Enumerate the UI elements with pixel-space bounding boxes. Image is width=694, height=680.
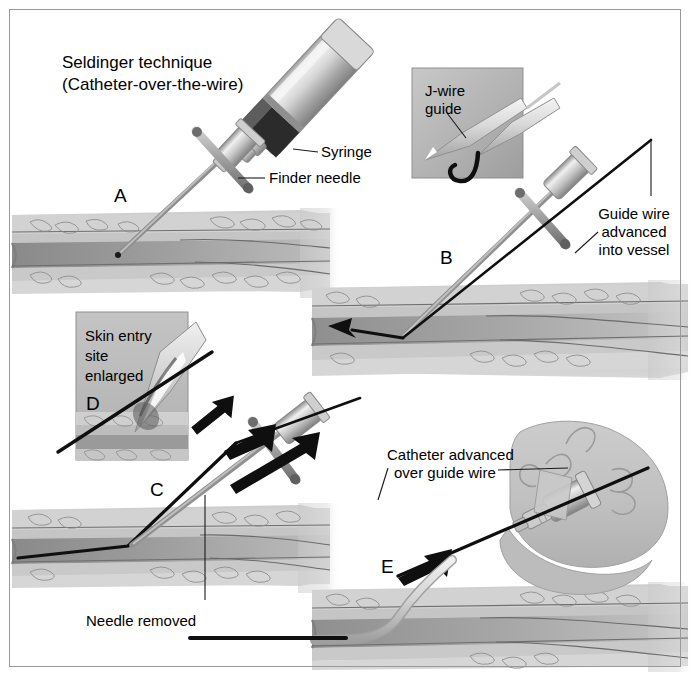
label-guide-wire-line1: Guide wire bbox=[586, 205, 682, 223]
label-syringe: Syringe bbox=[321, 143, 372, 161]
panel-letter-e: E bbox=[381, 557, 394, 576]
panel-letter-c: C bbox=[150, 480, 164, 499]
label-skin-entry-line3: enlarged bbox=[85, 367, 143, 385]
title-line-1: Seldinger technique bbox=[62, 53, 212, 72]
seldinger-technique-figure: Seldinger technique (Catheter-over-the-w… bbox=[0, 0, 694, 680]
label-j-wire-guide-line2: guide bbox=[425, 100, 462, 118]
label-catheter-advanced-line1: Catheter advanced bbox=[387, 446, 514, 464]
label-needle-removed: Needle removed bbox=[86, 612, 196, 630]
panel-letter-b: B bbox=[440, 248, 453, 267]
panel-c-tissue bbox=[12, 503, 340, 593]
label-guide-wire-line2: advanced bbox=[586, 223, 682, 241]
label-skin-entry-line1: Skin entry bbox=[85, 327, 152, 345]
figure-title: Seldinger technique (Catheter-over-the-w… bbox=[62, 52, 243, 96]
label-j-wire-guide-line1: J-wire bbox=[425, 82, 465, 100]
panel-b-tissue bbox=[312, 280, 692, 380]
panel-letter-a: A bbox=[114, 186, 127, 205]
label-guide-wire-line3: into vessel bbox=[586, 241, 682, 259]
panel-letter-d: D bbox=[86, 394, 100, 413]
panel-e-tissue bbox=[312, 582, 692, 672]
label-skin-entry-line2: site bbox=[85, 347, 108, 365]
label-catheter-advanced-line2: over guide wire bbox=[394, 464, 496, 482]
panel-a-tissue bbox=[12, 208, 340, 298]
label-finder-needle: Finder needle bbox=[269, 169, 361, 187]
title-line-2: (Catheter-over-the-wire) bbox=[62, 75, 243, 94]
